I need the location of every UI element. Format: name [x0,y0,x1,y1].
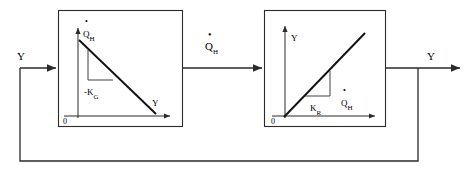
block-diagram-svg [0,0,468,176]
interstage-signal-label: • QH [205,36,218,56]
block-1-origin-label: 0 [63,110,67,128]
block-1-characteristic-line [79,40,156,114]
block-1-x-axis-label: Y [152,92,159,110]
block-2-frame [265,11,386,127]
output-signal-label: Y [427,46,435,64]
block-1-y-axis-label: • QH [83,23,95,43]
block-2-characteristic-line [284,33,365,117]
block-2-x-axis-label: • QH [341,92,353,112]
block-2-origin-label: 0 [271,110,275,128]
block-2-y-axis-label: Y [291,27,298,45]
dot-accent-icon: • [208,30,212,40]
diagram-canvas: Y • QH Y • QH Y 0 -KG Y • QH [0,0,468,176]
block-1-frame [59,11,183,127]
block-1-slope-triangle [88,50,113,80]
dot-accent-icon: • [343,87,346,95]
input-signal-label: Y [17,46,25,64]
dot-accent-icon: • [85,18,88,26]
block-2-gain-label: KR [310,97,321,117]
feedback-path [20,68,418,161]
block-1-gain-label: -KG [84,81,99,101]
